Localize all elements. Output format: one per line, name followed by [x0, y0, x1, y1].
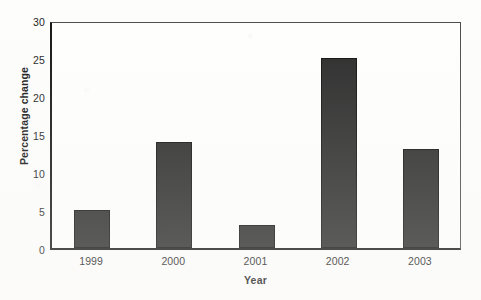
chart-screenshot: Percentage change 051015202530 199920002… — [0, 0, 481, 300]
y-tick-label: 15 — [5, 131, 45, 142]
y-tick-label: 20 — [5, 93, 45, 104]
y-tick-label: 25 — [5, 55, 45, 66]
x-tick-label: 2001 — [226, 256, 286, 267]
y-tick-label: 30 — [5, 17, 45, 28]
bar-2002 — [321, 58, 357, 248]
x-axis-title: Year — [50, 274, 461, 286]
y-axis-tick-labels: 051015202530 — [0, 22, 45, 250]
x-axis-tick-labels: 19992000200120022003 — [50, 256, 461, 272]
bar-2001 — [239, 225, 275, 248]
bar-2003 — [403, 149, 439, 248]
y-tick-label: 10 — [5, 169, 45, 180]
bar-2000 — [156, 142, 192, 248]
bar-1999 — [74, 210, 110, 248]
plot-area — [50, 22, 461, 250]
x-tick-label: 2002 — [308, 256, 368, 267]
y-tick-label: 0 — [5, 245, 45, 256]
x-tick-label: 2000 — [143, 256, 203, 267]
x-tick-label: 1999 — [61, 256, 121, 267]
x-tick-label: 2003 — [390, 256, 450, 267]
y-tick-label: 5 — [5, 207, 45, 218]
